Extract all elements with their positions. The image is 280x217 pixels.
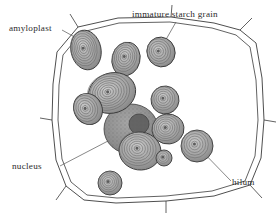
grain-hilum (181, 130, 213, 162)
label-hilum: hilum (232, 177, 255, 187)
label-immature-starch-grain: immature starch grain (132, 9, 218, 19)
grain-bottom (98, 171, 122, 195)
label-nucleus: nucleus (12, 161, 42, 171)
grain-tiny-mid (156, 150, 172, 166)
plant-cell-illustration: amyloplast immature starch grain nucleus… (0, 0, 280, 217)
label-amyloplast: amyloplast (9, 23, 52, 33)
